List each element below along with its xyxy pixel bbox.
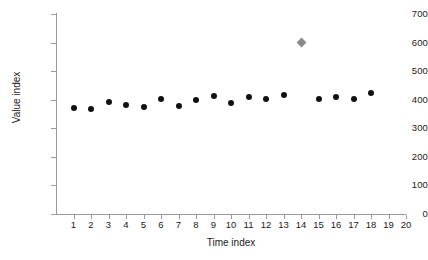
data-point-outlier (296, 37, 306, 47)
data-point (141, 104, 147, 110)
data-point (316, 96, 322, 102)
data-markers (0, 0, 428, 260)
data-point (123, 102, 129, 108)
data-point (88, 106, 94, 112)
x-axis-title: Time index (56, 237, 406, 248)
data-point (211, 93, 217, 99)
data-point (193, 97, 199, 103)
data-point (176, 103, 182, 109)
data-point (246, 94, 252, 100)
y-axis-title: Value index (11, 50, 22, 146)
data-point (281, 92, 287, 98)
scatter-chart: 0100200300400500600700 12345678910111213… (0, 0, 428, 260)
data-point (333, 94, 339, 100)
data-point (106, 99, 112, 105)
data-point (228, 100, 234, 106)
data-point (368, 90, 374, 96)
data-point (71, 105, 77, 111)
data-point (263, 96, 269, 102)
data-point (351, 96, 357, 102)
data-point (158, 96, 164, 102)
